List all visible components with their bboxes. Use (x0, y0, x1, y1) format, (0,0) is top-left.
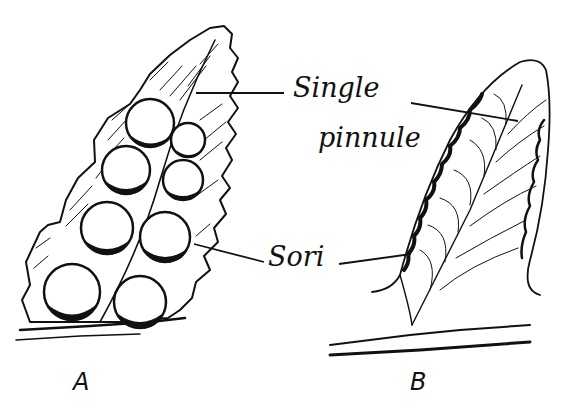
leader-sori-b (339, 254, 411, 264)
fern-illustration (0, 0, 569, 412)
label-sori: Sori (268, 243, 324, 270)
sori-group-a (44, 99, 205, 328)
label-single: Single (293, 74, 379, 101)
diagram-canvas (0, 0, 569, 412)
panel-label-b: B (410, 370, 426, 394)
panel-label-a: A (73, 370, 89, 394)
label-pinnule: pinnule (318, 124, 421, 151)
panel-b-drawing (330, 60, 550, 355)
leader-pinnule-b (411, 103, 518, 121)
